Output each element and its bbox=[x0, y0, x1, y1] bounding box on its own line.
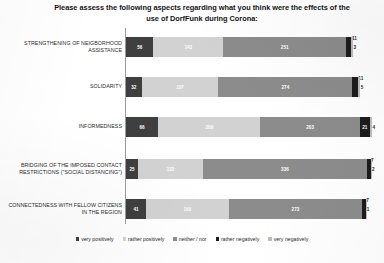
bar-segment[interactable]: 2 bbox=[371, 159, 372, 179]
bar-segment[interactable]: 336 bbox=[203, 159, 367, 179]
bar-segment[interactable]: 169 bbox=[146, 199, 229, 219]
bar-segment[interactable]: 21 bbox=[360, 117, 370, 137]
segment-value: 132 bbox=[167, 167, 175, 172]
stacked-bar-chart: Please assess the following aspects rega… bbox=[0, 0, 384, 263]
category-label: STRENGTHENING OF NEIGBORHOOD ASSISTANCE bbox=[6, 40, 122, 54]
category-label: SOLIDARITY bbox=[6, 83, 122, 90]
bar-segment[interactable]: 4 bbox=[370, 117, 372, 137]
segment-value: 4 bbox=[373, 125, 376, 130]
segment-value: 143 bbox=[185, 45, 193, 50]
bar-segment[interactable]: 56 bbox=[126, 37, 153, 57]
stacked-bar: 32157274115 bbox=[126, 77, 360, 97]
legend-item[interactable]: rather positively bbox=[123, 236, 165, 242]
chart-row: BRIDGING OF THE IMPOSED CONTACT RESTRICT… bbox=[0, 150, 384, 188]
stacked-bar: 56143251113 bbox=[126, 37, 353, 57]
bar-segment[interactable]: 25 bbox=[126, 159, 138, 179]
segment-value: 274 bbox=[282, 85, 290, 90]
segment-value: 5 bbox=[361, 85, 364, 90]
bar-segment[interactable]: 274 bbox=[218, 77, 352, 97]
chart-legend: very positivelyrather positivelyneither … bbox=[0, 236, 384, 242]
segment-value: 56 bbox=[137, 45, 142, 50]
segment-value: 25 bbox=[130, 167, 135, 172]
segment-value: 66 bbox=[140, 125, 145, 130]
legend-swatch-icon bbox=[173, 237, 176, 240]
segment-value: 1 bbox=[367, 207, 370, 212]
legend-item[interactable]: rather negatively bbox=[216, 236, 260, 242]
stacked-bar: 4116927371 bbox=[126, 199, 366, 219]
legend-label: rather negatively bbox=[221, 236, 259, 242]
chart-row: STRENGTHENING OF NEIGBORHOOD ASSISTANCE5… bbox=[0, 28, 384, 66]
legend-swatch-icon bbox=[216, 237, 219, 240]
plot-area: STRENGTHENING OF NEIGBORHOOD ASSISTANCE5… bbox=[0, 28, 384, 224]
category-label: BRIDGING OF THE IMPOSED CONTACT RESTRICT… bbox=[6, 162, 122, 176]
segment-value: 3 bbox=[353, 45, 356, 50]
legend-swatch-icon bbox=[268, 237, 271, 240]
legend-swatch-icon bbox=[76, 237, 79, 240]
segment-value: 169 bbox=[184, 207, 192, 212]
segment-value: 2 bbox=[372, 167, 375, 172]
segment-value: 251 bbox=[281, 45, 289, 50]
bar-segment[interactable]: 41 bbox=[126, 199, 146, 219]
stacked-bar: 66209203214 bbox=[126, 117, 372, 137]
category-label: INFORMEDNESS bbox=[6, 123, 122, 130]
segment-value: 203 bbox=[306, 125, 314, 130]
legend-label: very negatively bbox=[274, 236, 309, 242]
segment-value: 273 bbox=[292, 207, 300, 212]
bar-segment[interactable]: 157 bbox=[142, 77, 219, 97]
segment-value: 157 bbox=[176, 85, 184, 90]
segment-value: 41 bbox=[133, 207, 138, 212]
segment-value: 21 bbox=[362, 125, 367, 130]
segment-value: 7 bbox=[366, 198, 369, 203]
segment-value: 209 bbox=[206, 125, 214, 130]
segment-value: 32 bbox=[131, 85, 136, 90]
legend-label: neither / nor bbox=[179, 236, 207, 242]
bar-segment[interactable]: 273 bbox=[229, 199, 363, 219]
legend-label: rather positively bbox=[128, 236, 164, 242]
bar-segment[interactable]: 251 bbox=[223, 37, 346, 57]
legend-item[interactable]: very positively bbox=[76, 236, 114, 242]
bar-segment[interactable]: 143 bbox=[153, 37, 223, 57]
bar-segment[interactable]: 209 bbox=[158, 117, 260, 137]
legend-item[interactable]: neither / nor bbox=[173, 236, 206, 242]
segment-value: 336 bbox=[281, 167, 289, 172]
chart-title: Please assess the following aspects rega… bbox=[52, 3, 352, 24]
chart-row: INFORMEDNESS66209203214 bbox=[0, 108, 384, 146]
bar-segment[interactable]: 132 bbox=[138, 159, 203, 179]
legend-swatch-icon bbox=[123, 237, 126, 240]
category-label: CONNECTEDNESS WITH FELLOW CITIZENS IN TH… bbox=[6, 202, 122, 216]
chart-row: SOLIDARITY32157274115 bbox=[0, 68, 384, 106]
legend-item[interactable]: very negatively bbox=[268, 236, 308, 242]
bar-segment[interactable]: 203 bbox=[260, 117, 359, 137]
chart-row: CONNECTEDNESS WITH FELLOW CITIZENS IN TH… bbox=[0, 190, 384, 228]
bar-segment[interactable]: 5 bbox=[358, 77, 360, 97]
bar-segment[interactable]: 32 bbox=[126, 77, 142, 97]
bar-segment[interactable]: 3 bbox=[351, 37, 352, 57]
bar-segment[interactable]: 66 bbox=[126, 117, 158, 137]
legend-label: very positively bbox=[81, 236, 114, 242]
stacked-bar: 2513233672 bbox=[126, 159, 372, 179]
segment-value: 7 bbox=[371, 158, 374, 163]
